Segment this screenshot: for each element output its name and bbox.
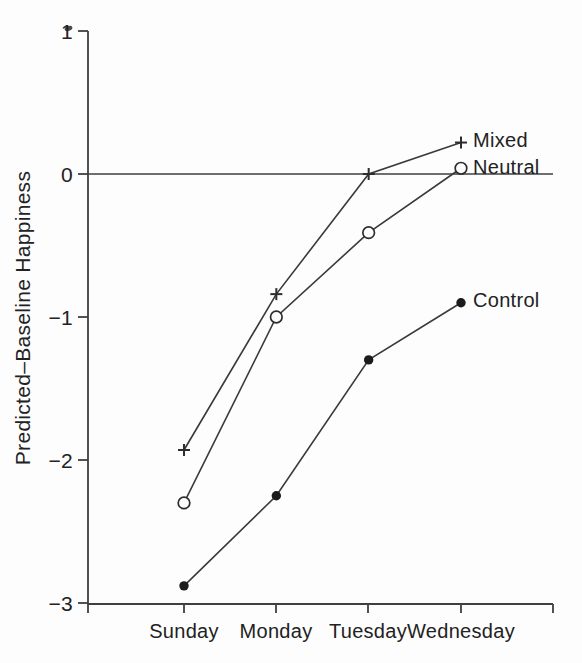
marker-mixed-wednesday <box>455 137 467 149</box>
series-line-control <box>184 303 461 586</box>
marker-neutral-tuesday <box>363 227 375 239</box>
y-tick-label: 0 <box>61 163 73 186</box>
series-labels: Mixed Neutral Control <box>473 129 540 311</box>
marker-neutral-sunday <box>178 497 190 509</box>
x-tick-label: Tuesday <box>329 620 407 642</box>
marker-mixed-sunday <box>178 444 190 456</box>
x-tick-label: Monday <box>240 620 313 642</box>
x-axis: Sunday Monday Tuesday Wednesday <box>88 604 553 642</box>
figure-container: 1 0 −1 −2 −3 Predicted–Baseline Happines… <box>0 0 582 663</box>
y-axis-title: Predicted–Baseline Happiness <box>11 171 34 465</box>
y-tick-label: 1 <box>61 20 73 43</box>
series-label-neutral: Neutral <box>473 156 540 178</box>
marker-control-wednesday <box>456 298 465 307</box>
y-axis: 1 0 −1 −2 −3 Predicted–Baseline Happines… <box>11 20 88 615</box>
series-label-control: Control <box>473 289 540 311</box>
x-tick-label: Wednesday <box>407 620 515 642</box>
marker-control-tuesday <box>364 355 373 364</box>
marker-control-monday <box>272 491 281 500</box>
marker-neutral-wednesday <box>455 162 467 174</box>
series-label-mixed: Mixed <box>473 129 528 151</box>
happiness-line-chart: 1 0 −1 −2 −3 Predicted–Baseline Happines… <box>0 0 582 663</box>
marker-neutral-monday <box>271 311 283 323</box>
marker-control-sunday <box>179 581 188 590</box>
y-tick-label: −2 <box>48 449 73 472</box>
y-tick-label: −1 <box>48 306 73 329</box>
series-line-neutral <box>184 168 461 503</box>
x-tick-label: Sunday <box>149 620 219 642</box>
series-line-mixed <box>184 143 461 450</box>
series-layer <box>178 137 467 591</box>
y-tick-label: −3 <box>48 592 73 615</box>
